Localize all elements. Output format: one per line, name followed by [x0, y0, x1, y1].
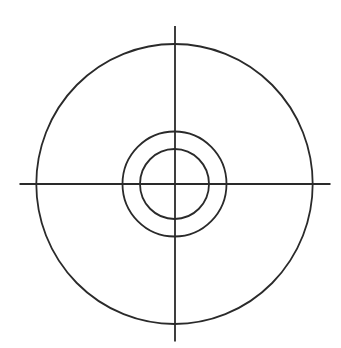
target-diagram: [0, 0, 341, 348]
diagram-canvas: [0, 0, 341, 348]
